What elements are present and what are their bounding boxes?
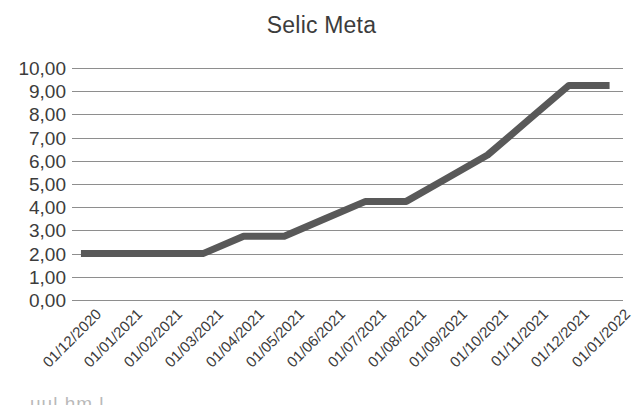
y-tick-label: 4,00 — [29, 198, 66, 217]
y-tick-label: 7,00 — [29, 128, 66, 147]
y-tick-label: 6,00 — [29, 151, 66, 170]
x-axis: 01/12/202001/01/202101/02/202101/03/2021… — [72, 300, 623, 399]
scan-artifact-text: uul hm l — [30, 393, 210, 405]
y-tick-label: 5,00 — [29, 175, 66, 194]
y-tick-label: 0,00 — [29, 291, 66, 310]
y-tick-label: 9,00 — [29, 82, 66, 101]
y-tick-label: 1,00 — [29, 267, 66, 286]
y-tick-label: 10,00 — [18, 59, 66, 78]
y-tick-label: 8,00 — [29, 105, 66, 124]
chart-title: Selic Meta — [0, 12, 643, 39]
data-line — [81, 85, 610, 253]
y-axis: 0,001,002,003,004,005,006,007,008,009,00… — [0, 68, 66, 300]
y-tick-label: 2,00 — [29, 244, 66, 263]
y-tick-label: 3,00 — [29, 221, 66, 240]
plot-area — [72, 68, 623, 300]
series-line-selic-meta — [72, 68, 623, 300]
